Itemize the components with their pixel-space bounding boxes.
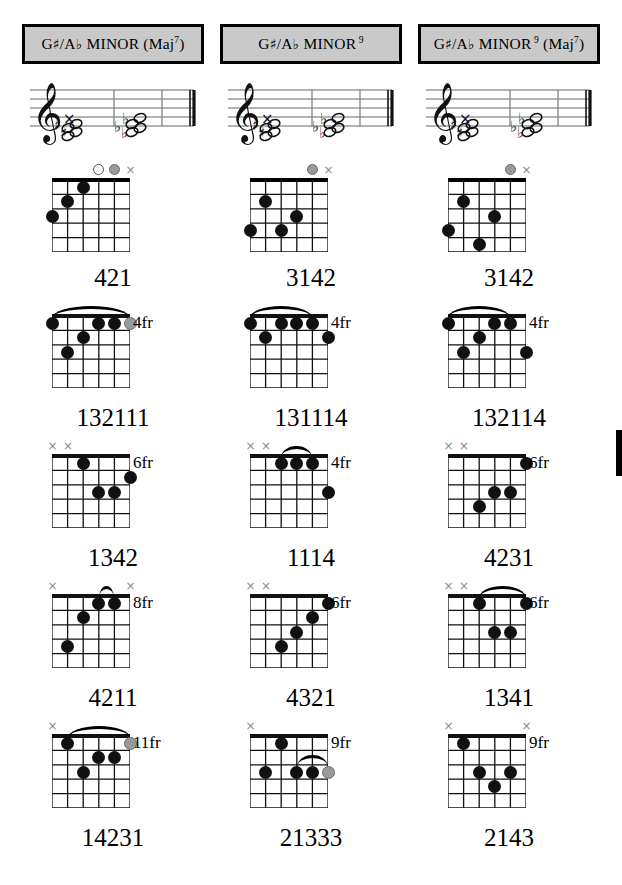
chord-diagram[interactable]: ×421: [22, 154, 204, 266]
finger-dot: [290, 626, 303, 639]
chord-cell-c1-r1: 4fr131114: [220, 294, 402, 434]
finger-dot: [457, 346, 470, 359]
fret-position-label: 6fr: [529, 594, 549, 611]
finger-dot: [77, 766, 90, 779]
svg-text:𝄞: 𝄞: [428, 82, 459, 145]
fret-position-label: 6fr: [133, 454, 153, 471]
svg-text:♭: ♭: [518, 110, 525, 128]
chord-diagram[interactable]: ×11fr14231: [22, 714, 204, 826]
svg-text:×: ×: [459, 110, 472, 128]
chord-cell-c2-r2: ××6fr4231: [418, 434, 600, 574]
fingering-numbers: 421: [22, 264, 204, 292]
svg-text:♭: ♭: [320, 110, 327, 128]
fret-position-label: 4fr: [529, 314, 549, 331]
chord-title-box-1: G♯/A♭ MINOR 9: [220, 24, 402, 64]
fingering-numbers: 4211: [22, 684, 204, 712]
finger-dot: [290, 457, 303, 470]
staff-notation-row: 𝄞♯♯×♭♭♭ 𝄞♯♯×♭♭♭ 𝄞♯♯×♭♭♭: [0, 64, 622, 154]
svg-text:𝄞: 𝄞: [32, 82, 63, 145]
chord-diagram[interactable]: ××9fr2143: [418, 714, 600, 826]
finger-dot: [259, 766, 272, 779]
fingering-numbers: 4231: [418, 544, 600, 572]
finger-dot: [504, 626, 517, 639]
fingering-numbers: 14231: [22, 824, 204, 852]
chord-diagram[interactable]: ×9fr21333: [220, 714, 402, 826]
chord-diagram[interactable]: 4fr131114: [220, 294, 402, 406]
fingering-numbers: 3142: [418, 264, 600, 292]
svg-text:×: ×: [63, 110, 76, 128]
finger-dot: [61, 346, 74, 359]
fingering-numbers: 1114: [220, 544, 402, 572]
optional-finger-dot: [322, 766, 335, 779]
chord-diagram[interactable]: ××6fr1341: [418, 574, 600, 686]
finger-dot: [306, 766, 319, 779]
nut-bar: [448, 454, 526, 458]
chord-diagram[interactable]: ××6fr4321: [220, 574, 402, 686]
chord-title-text-2: G♯/A♭ MINOR 9 (Maj7): [434, 36, 585, 52]
chord-diagram[interactable]: ×3142: [220, 154, 402, 266]
fretboard: ××: [250, 596, 328, 668]
finger-dot: [488, 486, 501, 499]
chord-cell-c0-r3: ××8fr4211: [22, 574, 204, 714]
fretboard-grid: [250, 596, 328, 668]
title-alt-root: A: [64, 35, 75, 52]
chord-diagram[interactable]: ××6fr4231: [418, 434, 600, 546]
finger-dot: [124, 471, 137, 484]
finger-dot: [504, 317, 517, 330]
fretboard: [52, 316, 130, 388]
string-markers: ××: [448, 720, 526, 734]
finger-dot: [46, 210, 59, 223]
chord-cell-c2-r1: 4fr132114: [418, 294, 600, 434]
chord-diagram[interactable]: ××4fr1114: [220, 434, 402, 546]
fingering-numbers: 132114: [418, 404, 600, 432]
fretboard: ××: [250, 456, 328, 528]
fret-position-label: 6fr: [331, 594, 351, 611]
svg-text:♭: ♭: [122, 110, 129, 128]
sharp-icon: ♯: [270, 36, 277, 52]
string-markers: ××: [52, 440, 130, 454]
finger-dot: [61, 737, 74, 750]
chord-cell-c0-r2: ××6fr1342: [22, 434, 204, 574]
finger-dot: [306, 611, 319, 624]
chord-diagram[interactable]: ××8fr4211: [22, 574, 204, 686]
flat-icon: ♭: [76, 36, 83, 52]
string-markers: ××: [52, 580, 130, 594]
open-string-icon: [93, 164, 104, 175]
svg-text:×: ×: [261, 110, 274, 128]
finger-dot: [77, 457, 90, 470]
staff-notation-0: 𝄞♯♯×♭♭♭: [22, 72, 204, 154]
chord-diagram[interactable]: ×3142: [418, 154, 600, 266]
fret-position-label: 9fr: [331, 734, 351, 751]
muted-string-icon: ×: [245, 440, 257, 452]
chord-row-4: ×11fr14231×9fr21333××9fr2143: [22, 714, 600, 854]
page-edge-rule: [616, 430, 622, 476]
fingering-numbers: 1342: [22, 544, 204, 572]
finger-dot: [108, 486, 121, 499]
svg-text:𝄞: 𝄞: [230, 82, 261, 145]
finger-dot: [92, 597, 105, 610]
chord-cell-c2-r3: ××6fr1341: [418, 574, 600, 714]
chord-diagram[interactable]: 4fr132114: [418, 294, 600, 406]
title-paren-close: ): [579, 35, 584, 52]
muted-string-icon: ×: [47, 440, 59, 452]
finger-dot: [322, 331, 335, 344]
chord-cell-c0-r0: ×421: [22, 154, 204, 294]
chord-diagram-grid: ×421×3142×31424fr1321114fr1311144fr13211…: [0, 154, 622, 854]
fretboard: ×: [448, 180, 526, 252]
muted-string-icon: ×: [47, 720, 59, 732]
fretboard: ××: [448, 736, 526, 808]
fretboard-grid: [448, 180, 526, 252]
finger-dot: [442, 317, 455, 330]
fretboard: ××: [448, 456, 526, 528]
chord-cell-c0-r1: 4fr132111: [22, 294, 204, 434]
muted-string-icon: ×: [521, 720, 533, 732]
finger-dot: [108, 751, 121, 764]
chord-diagram[interactable]: ××6fr1342: [22, 434, 204, 546]
finger-dot: [504, 766, 517, 779]
chord-diagram[interactable]: 4fr132111: [22, 294, 204, 406]
fretboard: ×: [52, 180, 130, 252]
finger-dot: [306, 317, 319, 330]
title-extension: 9: [532, 35, 540, 45]
finger-dot: [61, 640, 74, 653]
string-markers: ×: [448, 164, 526, 178]
